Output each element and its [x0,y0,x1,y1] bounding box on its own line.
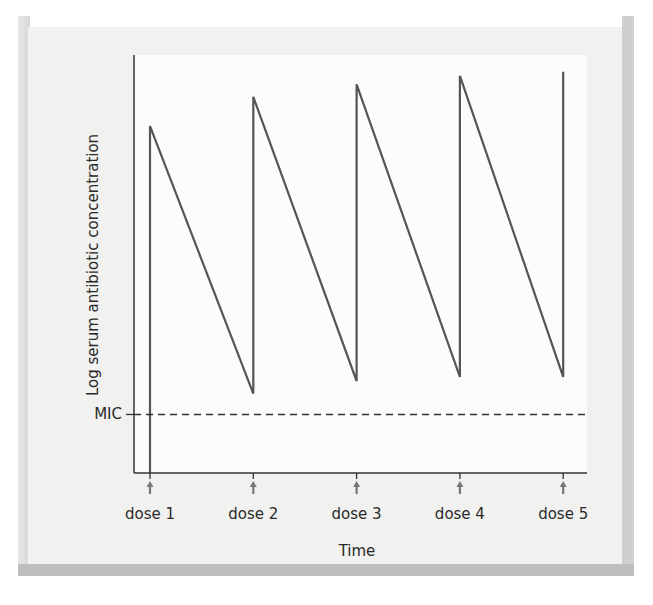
concentration-line [150,72,563,473]
concentration-series [150,72,563,473]
up-arrow-icon [456,481,463,494]
up-arrow-icon [250,481,257,494]
dose-label: dose 1 [125,505,175,523]
x-axis-label: Time [338,542,376,560]
dose-ticks: dose 1dose 2dose 3dose 4dose 5 [125,473,588,523]
dose-label: dose 4 [435,505,485,523]
chart: dose 1dose 2dose 3dose 4dose 5 MIC Log s… [0,0,653,605]
dose-label: dose 5 [538,505,588,523]
dose-label: dose 3 [332,505,382,523]
dose-label: dose 2 [228,505,278,523]
up-arrow-icon [560,481,567,494]
up-arrow-icon [147,481,154,494]
mic-label: MIC [94,405,122,423]
y-axis-label: Log serum antibiotic concentration [84,134,102,396]
up-arrow-icon [353,481,360,494]
